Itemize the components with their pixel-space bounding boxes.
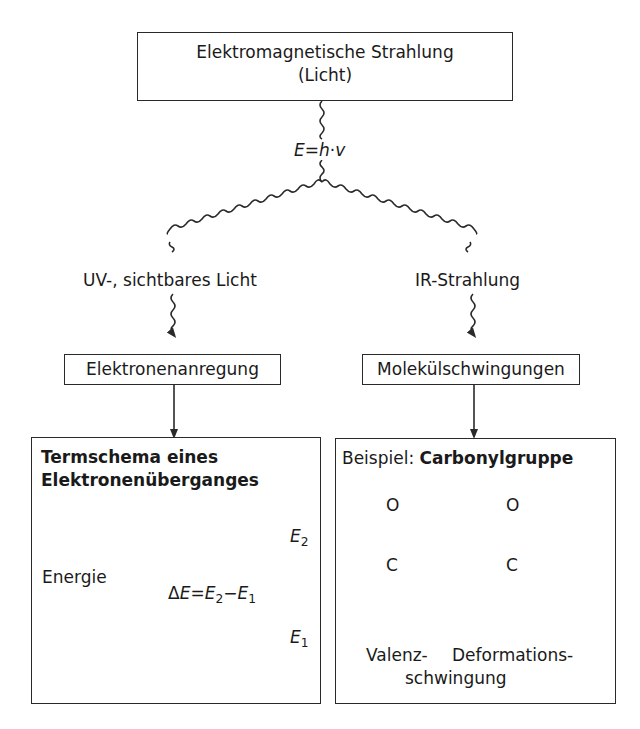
molecular-vibrations-box: Molekülschwingungen xyxy=(362,354,580,385)
term-scheme-title: Termschema eines Elektronenüberganges xyxy=(41,446,259,492)
level-e2-label: E2 xyxy=(290,526,309,549)
photon-energy-equation: E=h·v xyxy=(294,140,345,160)
atom-o-deformation: O xyxy=(506,495,519,515)
branch-label-ir: IR-Strahlung xyxy=(415,270,520,290)
photon-arrow-right xyxy=(471,294,475,334)
electron-excitation-box: Elektronenanregung xyxy=(64,354,281,385)
delta-e-equation: ΔE=E2−E1 xyxy=(168,583,256,606)
energy-label: Energie xyxy=(42,567,107,587)
atom-c-valence: C xyxy=(386,555,398,575)
branch-label-uv-vis: UV-, sichtbares Licht xyxy=(83,270,257,290)
photon-wave-mid xyxy=(320,160,324,182)
label-valence: Valenz- xyxy=(366,645,428,665)
photon-wave-right xyxy=(322,180,477,234)
label-vibration: schwingung xyxy=(405,668,507,688)
photon-wave-left xyxy=(167,180,322,234)
photon-arrow-left xyxy=(171,294,175,334)
atom-c-deformation: C xyxy=(506,555,518,575)
radiation-subtitle: (Licht) xyxy=(138,64,512,87)
label-deformation: Deformations- xyxy=(452,645,573,665)
carbonyl-title: Beispiel: Carbonylgruppe xyxy=(342,448,573,468)
atom-o-valence: O xyxy=(386,495,399,515)
photon-wave-top xyxy=(320,101,324,139)
radiation-box: Elektromagnetische Strahlung (Licht) xyxy=(137,32,513,101)
radiation-title: Elektromagnetische Strahlung xyxy=(138,41,512,64)
level-e1-label: E1 xyxy=(290,627,309,650)
